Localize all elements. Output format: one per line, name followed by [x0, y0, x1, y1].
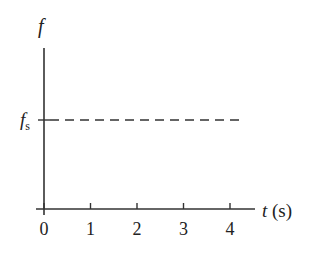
x-tick-label-3: 3: [174, 220, 194, 238]
x-tick-label-2: 2: [127, 220, 147, 238]
x-axis-label: t (s): [262, 201, 292, 220]
y-axis-label: f: [38, 16, 44, 36]
x-tick-label-1: 1: [81, 220, 101, 238]
x-tick-label-4: 4: [220, 220, 240, 238]
x-ticks: [44, 203, 230, 209]
x-tick-label-0: 0: [34, 220, 54, 238]
fs-label: fs: [20, 110, 30, 129]
